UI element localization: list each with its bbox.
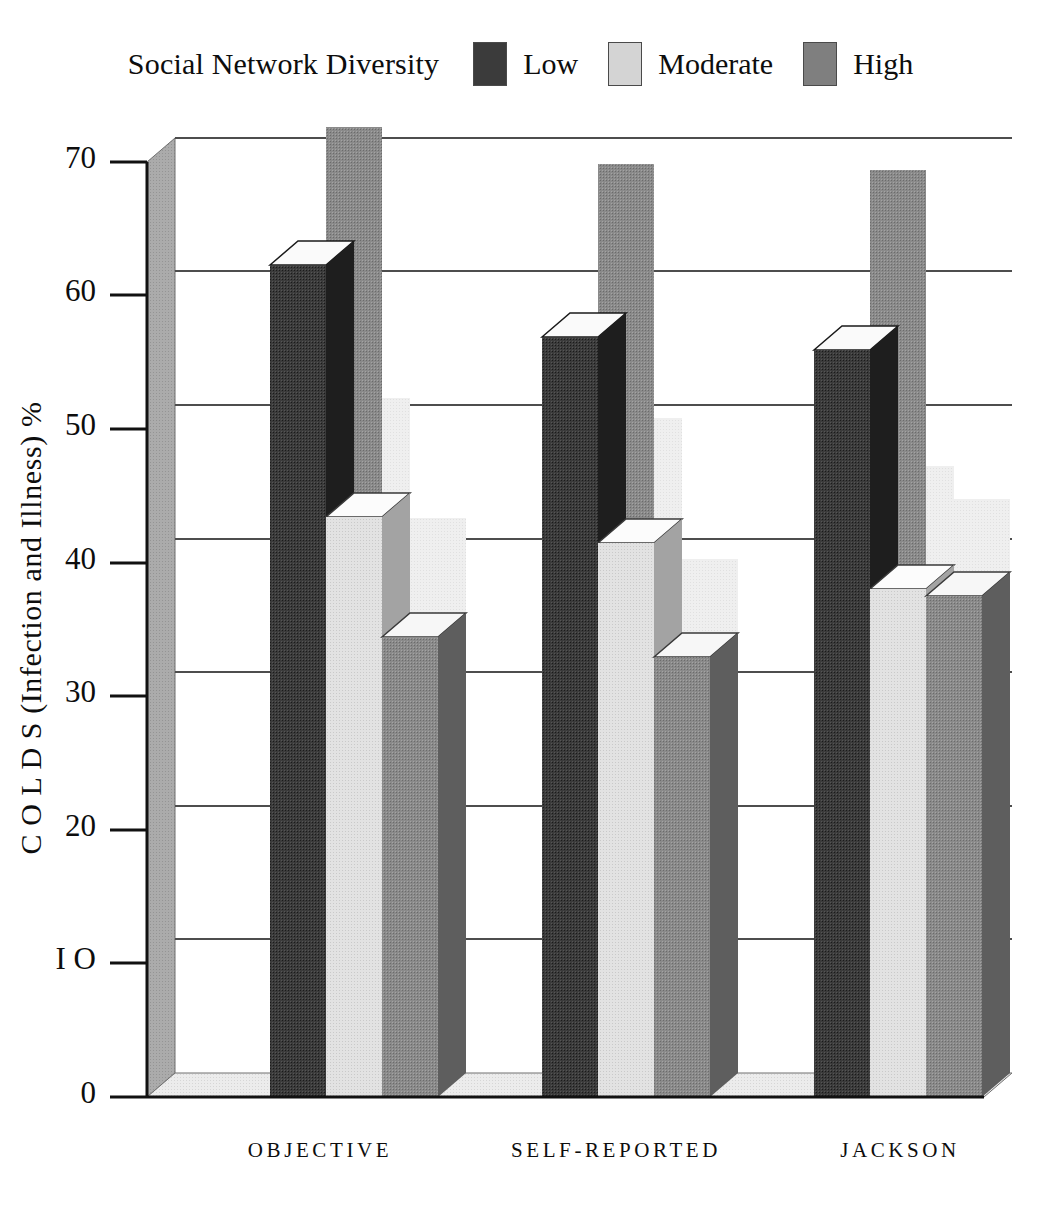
xtick-label-self-reported: SELF-REPORTED xyxy=(466,1140,766,1161)
bar-high-self-reported-side xyxy=(710,633,738,1097)
bar-group-jackson xyxy=(814,170,1010,1097)
bar-group-objective xyxy=(270,127,466,1097)
bar-high-objective-front xyxy=(382,637,438,1097)
bar-low-objective-front xyxy=(270,265,326,1097)
ytick-label-70: 70 xyxy=(8,142,96,173)
bar-chart: 70 60 50 40 30 20 I O 0 C O L D S (Infec… xyxy=(0,0,1041,1210)
bar-high-self-reported-front xyxy=(654,657,710,1097)
bar-low-self-reported-front xyxy=(542,337,598,1097)
bar-moderate-objective-front xyxy=(326,517,382,1097)
y-axis-ticks xyxy=(110,162,147,1097)
axis-left-wall xyxy=(147,138,175,1097)
bar-high-objective-side xyxy=(438,613,466,1097)
xtick-label-objective: OBJECTIVE xyxy=(200,1140,440,1161)
xtick-label-jackson: JACKSON xyxy=(790,1140,1010,1161)
y-axis-title: C O L D S (Infection and Illness) % xyxy=(14,248,48,1008)
bar-high-jackson-front xyxy=(926,596,982,1097)
bar-moderate-jackson-front xyxy=(870,589,926,1097)
chart-canvas xyxy=(0,0,1041,1210)
bar-group-self-reported xyxy=(542,164,738,1097)
bar-moderate-self-reported-front xyxy=(598,543,654,1097)
chart-3d-scene xyxy=(110,127,1012,1097)
bar-high-jackson-side xyxy=(982,572,1010,1097)
ytick-label-0: 0 xyxy=(8,1077,96,1108)
bar-low-jackson-front xyxy=(814,350,870,1097)
